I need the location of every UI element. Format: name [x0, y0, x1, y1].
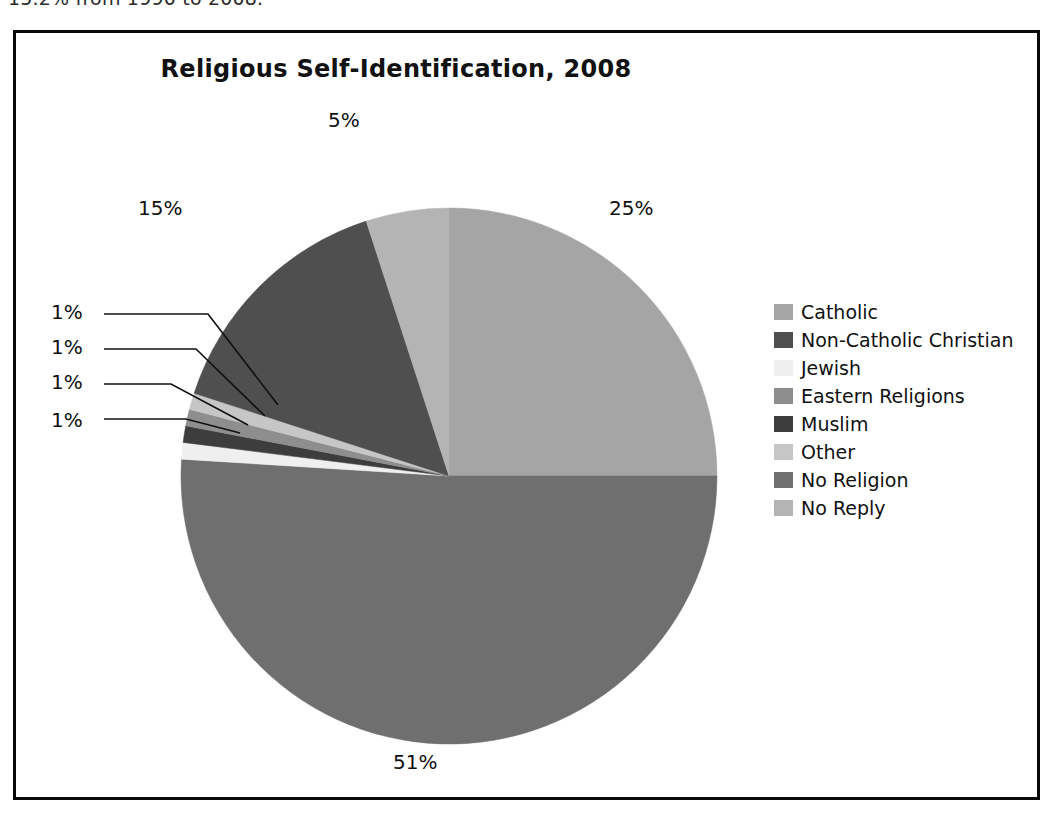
- pie-label-no-religion: 51%: [393, 750, 437, 774]
- pie-label-no-reply: 5%: [328, 108, 360, 132]
- legend-swatch-icon: [774, 388, 793, 404]
- legend-swatch-icon: [774, 332, 793, 348]
- legend-swatch-icon: [774, 500, 793, 516]
- legend-item-label: No Religion: [801, 469, 908, 491]
- legend-item-label: No Reply: [801, 497, 886, 519]
- legend-item-non-catholic-christian[interactable]: Non-Catholic Christian: [774, 326, 1029, 354]
- legend-item-jewish[interactable]: Jewish: [774, 354, 1029, 382]
- body-text-above-figure: 15.2% from 1990 to 2008.: [8, 0, 708, 9]
- legend-item-no-reply[interactable]: No Reply: [774, 494, 1029, 522]
- pie-label-other: 1%: [51, 300, 83, 324]
- pie-label-non-catholic-christian: 15%: [138, 196, 182, 220]
- chart-legend: CatholicNon-Catholic ChristianJewishEast…: [774, 298, 1029, 522]
- figure-frame: Religious Self-Identification, 2008 25% …: [13, 30, 1040, 800]
- pie-slice-no-religion: [181, 459, 717, 744]
- pie-label-muslim: 1%: [51, 370, 83, 394]
- legend-item-label: Catholic: [801, 301, 878, 323]
- legend-item-other[interactable]: Other: [774, 438, 1029, 466]
- legend-item-label: Jewish: [801, 357, 861, 379]
- pie-label-catholic: 25%: [609, 196, 653, 220]
- legend-swatch-icon: [774, 304, 793, 320]
- legend-item-eastern-religions[interactable]: Eastern Religions: [774, 382, 1029, 410]
- legend-swatch-icon: [774, 416, 793, 432]
- pie-slice-catholic: [449, 208, 717, 476]
- legend-item-muslim[interactable]: Muslim: [774, 410, 1029, 438]
- legend-swatch-icon: [774, 444, 793, 460]
- legend-item-no-religion[interactable]: No Religion: [774, 466, 1029, 494]
- legend-swatch-icon: [774, 472, 793, 488]
- pie-slice-group: [181, 208, 717, 744]
- legend-item-label: Other: [801, 441, 855, 463]
- legend-item-catholic[interactable]: Catholic: [774, 298, 1029, 326]
- legend-item-label: Eastern Religions: [801, 385, 965, 407]
- legend-item-label: Non-Catholic Christian: [801, 329, 1014, 351]
- pie-label-eastern-religions: 1%: [51, 335, 83, 359]
- pie-label-jewish: 1%: [51, 408, 83, 432]
- legend-item-label: Muslim: [801, 413, 868, 435]
- legend-swatch-icon: [774, 360, 793, 376]
